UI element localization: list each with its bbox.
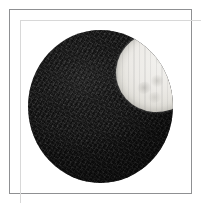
image-canvas xyxy=(0,0,202,204)
patch-spot-4 xyxy=(153,53,167,66)
patch-edge-feather xyxy=(106,30,173,123)
patch-spot-1 xyxy=(135,80,154,96)
pale-elliptical-patch xyxy=(106,30,173,123)
patch-spot-3 xyxy=(146,90,163,105)
patch-spot-2 xyxy=(149,73,165,89)
dark-sphere xyxy=(28,30,173,183)
patch-scan-streaks xyxy=(106,30,173,123)
